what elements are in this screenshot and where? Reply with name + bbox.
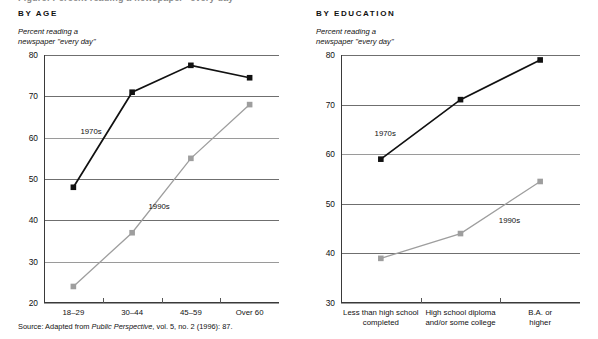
series-layer (44, 55, 279, 303)
y-axis-tick-label: 50 (326, 199, 335, 209)
x-axis-tick-label: High school diploma and/or some college (425, 308, 495, 327)
y-axis-tick-label: 70 (29, 91, 38, 101)
data-point-marker-1990s (458, 231, 464, 237)
y-axis-tick-label: 30 (29, 257, 38, 267)
y-axis-tick-label: 30 (326, 298, 335, 308)
source-publication: Public Perspective (92, 322, 153, 331)
data-point-marker-1990s (71, 284, 77, 290)
gridline (341, 303, 580, 304)
chart-panel-by-education: BY EDUCATION Percent reading a newspaper… (299, 0, 598, 339)
plot-area: 304050607080Less than high school comple… (341, 55, 580, 303)
series-layer (341, 55, 580, 303)
y-axis-tick-label: 80 (326, 50, 335, 60)
chart-panel-by-age: BY AGE Percent reading a newspaper "ever… (0, 0, 299, 339)
panel-title: BY AGE (18, 9, 58, 18)
data-point-marker-1970s (188, 63, 194, 69)
data-point-marker-1970s (247, 75, 253, 81)
data-point-marker-1990s (537, 179, 543, 185)
data-point-marker-1990s (129, 230, 135, 236)
y-axis-tick-label: 40 (326, 248, 335, 258)
plot-area: 2030405060708018–2930–4445–59Over 601970… (44, 55, 279, 303)
y-axis-caption: Percent reading a newspaper "every day" (18, 27, 96, 46)
x-axis-tick-label: 30–44 (121, 308, 143, 318)
y-axis-caption: Percent reading a newspaper "every day" (316, 27, 394, 46)
y-axis-tick-label: 60 (29, 133, 38, 143)
gridline (44, 303, 279, 304)
x-axis-tick-label: B.A. or higher (520, 308, 560, 327)
source-suffix: , vol. 5, no. 2 (1996): 87. (152, 322, 232, 331)
y-axis-tick-label: 80 (29, 50, 38, 60)
data-point-marker-1970s (129, 89, 135, 95)
data-point-marker-1970s (71, 184, 77, 190)
y-axis-tick-label: 40 (29, 215, 38, 225)
plot-canvas: 2030405060708018–2930–4445–59Over 601970… (44, 55, 279, 303)
x-axis-tick-label: Less than high school completed (343, 308, 418, 327)
plot-canvas: 304050607080Less than high school comple… (341, 55, 580, 303)
source-note: Source: Adapted from Public Perspective,… (18, 322, 232, 331)
x-axis-tick-label: 45–59 (180, 308, 202, 318)
figure-root: Figure: Percent reading a newspaper "eve… (0, 0, 598, 339)
series-annotation: 1970s (375, 129, 396, 138)
y-axis-tick-label: 20 (29, 298, 38, 308)
data-point-marker-1970s (537, 57, 543, 63)
y-axis-tick-label: 70 (326, 100, 335, 110)
source-prefix: Source: Adapted from (18, 322, 92, 331)
y-axis-tick-label: 50 (29, 174, 38, 184)
data-point-marker-1990s (188, 156, 194, 162)
x-axis-tick-label: Over 60 (236, 308, 264, 318)
data-point-marker-1990s (378, 256, 384, 262)
y-axis-tick-label: 60 (326, 149, 335, 159)
data-point-marker-1970s (458, 97, 464, 103)
panel-title: BY EDUCATION (316, 9, 395, 18)
series-line-1970s (381, 60, 540, 159)
series-annotation: 1970s (80, 127, 101, 136)
x-axis-tick-label: 18–29 (63, 308, 85, 318)
data-point-marker-1970s (378, 156, 384, 162)
series-annotation: 1990s (499, 215, 520, 224)
data-point-marker-1990s (247, 102, 253, 108)
series-annotation: 1990s (149, 201, 170, 210)
